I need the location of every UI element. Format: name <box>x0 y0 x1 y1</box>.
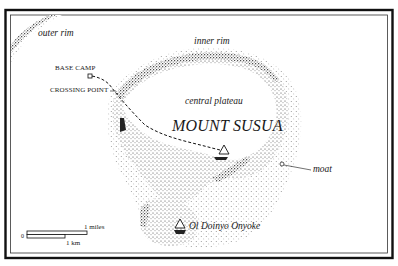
inner-rim-label: inner rim <box>194 37 230 47</box>
scale-zero-label: 0 <box>21 233 24 239</box>
peak-crater-icon <box>174 230 186 234</box>
base-camp-marker[interactable] <box>88 74 92 78</box>
crossing-point-label: CROSSING POINT <box>50 87 108 94</box>
map-title: MOUNT SUSUA <box>172 118 283 134</box>
summit-crater-icon <box>214 157 228 160</box>
peak-label: Ol Doinyo Onyoke <box>189 222 260 232</box>
scale-bar <box>27 231 87 238</box>
base-camp-label: BASE CAMP <box>55 65 95 72</box>
central-plateau-label: central plateau <box>185 97 243 107</box>
moat-label: moat <box>313 165 332 175</box>
outer-rim-shape <box>11 15 62 62</box>
outer-rim-label: outer rim <box>38 29 74 39</box>
scale-miles-label: 1 miles <box>84 224 104 231</box>
moat-marker[interactable] <box>280 162 284 166</box>
scale-km-label: 1 km <box>66 240 80 247</box>
